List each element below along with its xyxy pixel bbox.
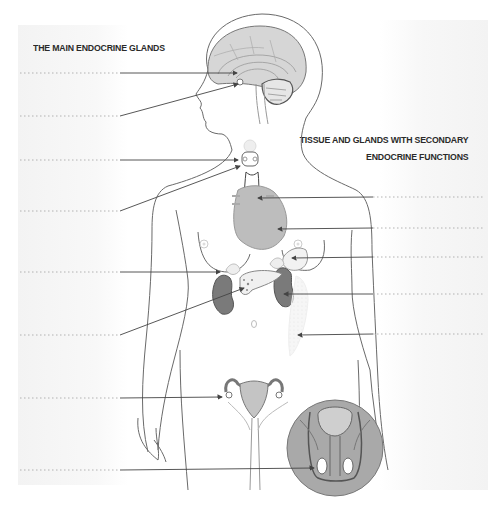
label-slot-right-5[interactable] (375, 324, 485, 334)
label-slot-left-8[interactable] (20, 460, 120, 470)
kidney-left-icon (213, 275, 234, 314)
label-slot-left-3[interactable] (20, 150, 120, 160)
label-slot-left-5[interactable] (20, 262, 120, 272)
male-reproductive-inset-icon (287, 400, 383, 496)
stomach-icon (283, 248, 308, 270)
label-slot-left-1[interactable] (20, 63, 120, 73)
heart-icon (234, 186, 287, 250)
uterus-icon (226, 380, 288, 490)
adrenal-right-icon (270, 258, 284, 269)
navel-icon (252, 321, 257, 328)
label-slot-left-7[interactable] (20, 388, 120, 398)
brain-icon (208, 26, 306, 124)
label-slot-left-6[interactable] (20, 325, 120, 335)
label-slot-left-4[interactable] (20, 201, 120, 211)
label-slot-right-2[interactable] (375, 218, 485, 228)
label-slot-right-3[interactable] (375, 247, 485, 257)
label-slot-right-4[interactable] (375, 284, 485, 294)
label-slot-right-1[interactable] (375, 187, 485, 197)
thyroid-icon (242, 140, 258, 166)
label-slot-left-2[interactable] (20, 106, 120, 116)
adrenal-left-icon (226, 264, 240, 275)
